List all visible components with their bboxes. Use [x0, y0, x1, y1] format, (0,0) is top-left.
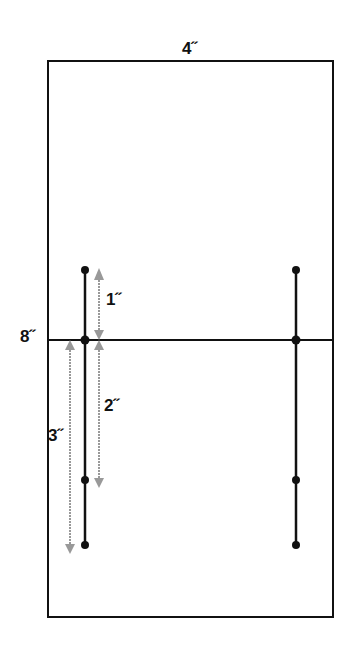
- height-label: 8˝: [20, 328, 35, 345]
- dimension-1-label: 1˝: [106, 291, 121, 308]
- dimension-3-label: 3˝: [48, 427, 63, 444]
- left-dot-bottom: [81, 541, 89, 549]
- right-dot-top: [292, 266, 300, 274]
- right-dot-bottom: [292, 541, 300, 549]
- left-dot-top: [81, 266, 89, 274]
- right-dot-mid: [292, 336, 301, 345]
- dimension-2-label: 2˝: [104, 397, 119, 414]
- right-dot-lower: [292, 476, 300, 484]
- left-dot-lower: [81, 476, 89, 484]
- left-dot-mid: [81, 336, 90, 345]
- width-label: 4˝: [182, 40, 197, 57]
- diagram-canvas: [0, 0, 351, 652]
